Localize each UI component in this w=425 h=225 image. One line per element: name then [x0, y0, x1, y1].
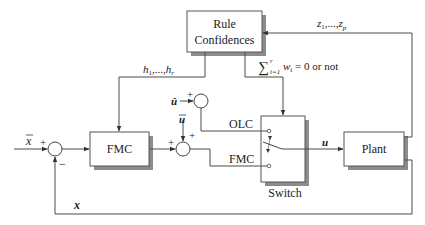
- j2-plus-left-sign: +: [168, 136, 174, 148]
- summing-junction-1: [48, 142, 62, 156]
- sigma-lower-limit: i=1: [270, 68, 280, 76]
- control-block-diagram: Rule Confidences FMC Plant Switch: [0, 0, 425, 225]
- plant-label: Plant: [362, 142, 387, 156]
- rule-confidences-label-line2: Confidences: [195, 33, 255, 47]
- rule-confidences-block: Rule Confidences: [187, 11, 266, 56]
- rule-confidences-label-line1: Rule: [213, 17, 236, 31]
- signal-x-label: x: [73, 198, 80, 212]
- sum-condition-text: wi = 0 or not: [283, 60, 338, 74]
- switch-block: Switch: [261, 116, 309, 200]
- switch-port-olc-label: OLC: [229, 117, 253, 131]
- svg-text:x: x: [25, 134, 32, 148]
- j3-plus-sign: +: [187, 88, 193, 100]
- j2-plus-top-sign: +: [189, 129, 195, 141]
- j1-minus-sign: −: [59, 157, 66, 171]
- j1-plus-sign: +: [40, 136, 46, 148]
- switch-contact-olc: [267, 129, 271, 133]
- sum-condition-label: ∑ r i=1 wi = 0 or not: [258, 57, 338, 76]
- plant-block: Plant: [344, 132, 408, 170]
- signal-uhat-label: û: [171, 95, 177, 107]
- fmc-label: FMC: [107, 142, 132, 156]
- signal-ubar-label: u: [179, 113, 186, 125]
- signal-z-label: z1,...,zp: [316, 17, 347, 32]
- sigma-upper-limit: r: [270, 57, 273, 65]
- signal-h-label: h1,...,hr: [143, 63, 174, 77]
- sigma-symbol: ∑: [258, 59, 269, 76]
- signal-wires: [14, 33, 412, 214]
- summing-junction-3: [194, 94, 208, 108]
- summing-junction-2: [176, 142, 190, 156]
- switch-contact-fmc: [267, 164, 271, 168]
- switch-label: Switch: [268, 186, 301, 200]
- signal-xbar-label: x: [25, 134, 33, 148]
- switch-port-fmc-label: FMC: [229, 152, 254, 166]
- fmc-block: FMC: [90, 132, 153, 170]
- signal-u-label: u: [322, 136, 328, 148]
- svg-text:û: û: [171, 95, 177, 107]
